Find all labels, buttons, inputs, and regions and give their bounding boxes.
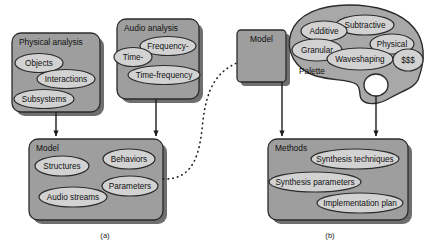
node-interactions[interactable]: Interactions bbox=[37, 70, 95, 89]
palette-thumb-hole-icon bbox=[364, 74, 388, 96]
audio-analysis-title: Audio analysis bbox=[124, 23, 178, 33]
node-additive[interactable]: Additive bbox=[301, 21, 347, 41]
group-palette: Subtractive Additive Physical Granular W… bbox=[289, 5, 423, 104]
group-model-a: Model Behaviors Structures Parameters Au… bbox=[29, 139, 167, 224]
node-structures[interactable]: Structures bbox=[35, 156, 89, 176]
node-parameters[interactable]: Parameters bbox=[102, 176, 158, 196]
node-implementation-plan[interactable]: Implementation plan bbox=[317, 193, 403, 213]
node-frequency-domain-label: Frequency- bbox=[147, 42, 189, 51]
node-synthesis-techniques[interactable]: Synthesis techniques bbox=[311, 149, 399, 169]
node-time-domain[interactable]: Time- bbox=[114, 48, 152, 67]
node-time-frequency-label: Time-frequency bbox=[136, 71, 193, 80]
node-time-frequency[interactable]: Time-frequency bbox=[128, 66, 200, 85]
figure-diagram: Physical analysis Objects Interactions S… bbox=[0, 0, 431, 250]
node-subtractive-label: Subtractive bbox=[345, 21, 386, 30]
node-physical-synthesis-label: Physical bbox=[377, 40, 408, 49]
panel-a: Physical analysis Objects Interactions S… bbox=[12, 19, 203, 224]
physical-analysis-title: Physical analysis bbox=[19, 37, 83, 47]
node-synthesis-parameters[interactable]: Synthesis parameters bbox=[269, 172, 361, 192]
palette-title: Palette bbox=[299, 66, 325, 76]
group-model-b: Model bbox=[237, 30, 290, 86]
group-physical-analysis: Physical analysis Objects Interactions S… bbox=[12, 33, 104, 116]
node-audio-streams-label: Audio streams bbox=[47, 193, 99, 202]
node-synthesis-techniques-label: Synthesis techniques bbox=[316, 155, 393, 164]
node-subsystems-label: Subsystems bbox=[22, 95, 67, 104]
node-structures-label: Structures bbox=[43, 162, 80, 171]
node-additive-label: Additive bbox=[309, 27, 339, 36]
node-behaviors[interactable]: Behaviors bbox=[103, 149, 155, 169]
node-granular-label: Granular bbox=[301, 46, 333, 55]
node-objects-label: Objects bbox=[25, 59, 53, 68]
node-implementation-plan-label: Implementation plan bbox=[323, 199, 397, 208]
node-parameters-label: Parameters bbox=[109, 182, 151, 191]
methods-title: Methods bbox=[275, 143, 307, 153]
node-audio-streams[interactable]: Audio streams bbox=[39, 187, 107, 207]
node-behaviors-label: Behaviors bbox=[111, 155, 147, 164]
caption-b: (b) bbox=[325, 231, 335, 240]
node-cost[interactable]: $$$ bbox=[393, 49, 423, 71]
group-methods: Methods Synthesis techniques Synthesis p… bbox=[268, 139, 412, 224]
node-synthesis-parameters-label: Synthesis parameters bbox=[275, 178, 354, 187]
caption-a: (a) bbox=[100, 231, 110, 240]
node-waveshaping[interactable]: Waveshaping bbox=[327, 48, 393, 70]
group-audio-analysis: Audio analysis Frequency- Time- Time-fre… bbox=[114, 19, 203, 103]
model-b-title: Model bbox=[250, 34, 273, 44]
node-time-domain-label: Time- bbox=[123, 53, 144, 62]
node-cost-label: $$$ bbox=[401, 56, 415, 65]
node-waveshaping-label: Waveshaping bbox=[335, 55, 385, 64]
model-a-title: Model bbox=[36, 143, 59, 153]
node-subsystems[interactable]: Subsystems bbox=[14, 90, 74, 109]
node-interactions-label: Interactions bbox=[45, 75, 87, 84]
panel-b: Model Subtractive Additive Physical bbox=[237, 5, 423, 224]
